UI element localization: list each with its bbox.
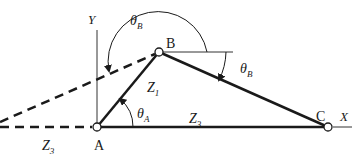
theta-a-arc xyxy=(120,99,133,127)
joint-b xyxy=(155,48,163,56)
z1-label: Z1 xyxy=(147,80,159,98)
point-a-label: A xyxy=(94,138,105,153)
theta-b-large-label: θB xyxy=(130,13,143,31)
theta-a-label: θA xyxy=(137,106,150,124)
theta-b-small-label: θB xyxy=(240,61,253,79)
x-axis-label: X xyxy=(339,109,349,124)
theta-b-small-arc xyxy=(219,52,226,80)
linkage-diagram: Y X A B C Z1 Z3 Z3 θA θB θB xyxy=(0,0,359,159)
z3-dashed-label: Z3 xyxy=(42,138,55,156)
joint-c xyxy=(324,123,332,131)
point-b-label: B xyxy=(166,36,175,51)
joint-a xyxy=(93,123,101,131)
y-axis-label: Y xyxy=(88,12,97,27)
dashed-extension-b xyxy=(0,54,155,122)
theta-b-large-arc xyxy=(108,12,207,71)
point-c-label: C xyxy=(316,109,325,124)
